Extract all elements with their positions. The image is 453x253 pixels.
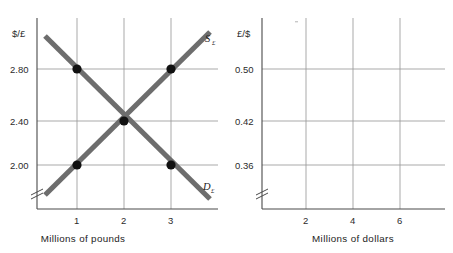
right-x-tick-4: 4 bbox=[350, 215, 355, 226]
left-x-axis-caption: Millions of pounds bbox=[41, 233, 126, 244]
left-panel-pound-market: $/£ 2.80 2.40 2.00 1 2 3 S £ D £ Million… bbox=[0, 0, 226, 253]
data-point-equilibrium bbox=[119, 116, 128, 125]
data-point-1-280 bbox=[72, 64, 81, 73]
right-panel-plot: £/$ 0.50 0.42 0.36 2 4 6 Millions of dol… bbox=[227, 0, 453, 253]
data-point-1-200 bbox=[72, 160, 81, 169]
data-point-3-200 bbox=[166, 160, 175, 169]
right-panel-dollar-market: £/$ 0.50 0.42 0.36 2 4 6 Millions of dol… bbox=[227, 0, 453, 253]
right-y-tick-036: 0.36 bbox=[235, 160, 254, 171]
left-panel-plot: $/£ 2.80 2.40 2.00 1 2 3 S £ D £ Million… bbox=[0, 0, 226, 253]
left-x-tick-1: 1 bbox=[74, 215, 79, 226]
exchange-rate-figure: $/£ 2.80 2.40 2.00 1 2 3 S £ D £ Million… bbox=[0, 0, 453, 253]
supply-curve-label: S bbox=[205, 33, 211, 44]
right-x-tick-2: 2 bbox=[303, 215, 308, 226]
data-point-3-280 bbox=[166, 64, 175, 73]
right-x-tick-6: 6 bbox=[397, 215, 402, 226]
left-y-tick-280: 2.80 bbox=[10, 64, 29, 75]
supply-curve-label-subscript: £ bbox=[212, 39, 216, 47]
right-y-tick-050: 0.50 bbox=[235, 64, 254, 75]
demand-curve-label: D bbox=[202, 181, 211, 192]
left-y-tick-200: 2.00 bbox=[10, 160, 29, 171]
demand-curve bbox=[45, 36, 210, 199]
left-x-tick-2: 2 bbox=[121, 215, 126, 226]
left-x-tick-3: 3 bbox=[168, 215, 173, 226]
demand-curve-label-subscript: £ bbox=[211, 187, 215, 195]
right-x-axis-caption: Millions of dollars bbox=[312, 233, 394, 244]
right-y-tick-042: 0.42 bbox=[235, 116, 254, 127]
right-y-axis-title: £/$ bbox=[237, 28, 251, 39]
print-speck bbox=[295, 21, 298, 22]
left-y-axis-title: $/£ bbox=[12, 28, 26, 39]
supply-curve bbox=[45, 32, 210, 195]
left-y-tick-240: 2.40 bbox=[10, 116, 29, 127]
